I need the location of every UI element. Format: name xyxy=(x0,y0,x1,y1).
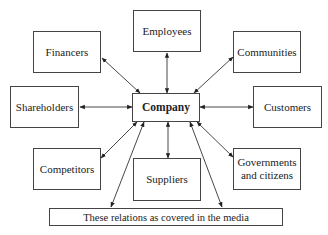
node-communities: Communities xyxy=(233,31,301,73)
node-shareholders-label: Shareholders xyxy=(16,101,73,114)
node-competitors-label: Competitors xyxy=(40,163,94,176)
node-media: These relations as covered in the media xyxy=(49,208,283,226)
node-company: Company xyxy=(132,93,200,122)
node-communities-label: Communities xyxy=(237,46,296,59)
arrow-company-financers xyxy=(102,58,140,93)
node-governments-label: Governments and citizens xyxy=(237,156,296,182)
node-media-label: These relations as covered in the media xyxy=(83,211,249,224)
arrow-company-competitors xyxy=(101,122,137,158)
node-customers: Customers xyxy=(253,86,322,128)
node-suppliers-label: Suppliers xyxy=(146,173,188,186)
node-competitors: Competitors xyxy=(33,148,101,190)
node-employees-label: Employees xyxy=(143,25,192,38)
arrow-company-communities xyxy=(194,57,233,93)
stakeholder-diagram: Employees Financers Communities Sharehol… xyxy=(0,0,328,235)
node-shareholders: Shareholders xyxy=(10,86,79,128)
node-financers: Financers xyxy=(33,31,101,73)
node-employees: Employees xyxy=(133,10,201,52)
arrow-company-governments xyxy=(197,122,233,157)
node-company-label: Company xyxy=(142,101,190,114)
node-customers-label: Customers xyxy=(264,101,311,114)
node-suppliers: Suppliers xyxy=(133,158,201,201)
node-governments: Governments and citizens xyxy=(233,148,301,190)
node-financers-label: Financers xyxy=(46,46,89,59)
